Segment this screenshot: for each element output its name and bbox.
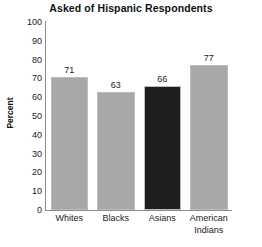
y-axis-tick-label: 20 — [20, 168, 42, 177]
bar-group: 71 — [51, 22, 89, 210]
y-axis-tick-label: 80 — [20, 55, 42, 64]
bar — [144, 86, 182, 210]
x-axis-tick-label-line: American — [182, 213, 237, 225]
bar — [97, 92, 135, 210]
bar-group: 77 — [190, 22, 228, 210]
bar-group: 66 — [144, 22, 182, 210]
y-axis-tick-labels: 1009080706050403020100 — [20, 22, 42, 210]
y-axis-tick-label: 50 — [20, 112, 42, 121]
x-axis-tick-labels: WhitesBlacksAsiansAmericanIndians — [46, 213, 232, 247]
y-axis-tick-label: 70 — [20, 74, 42, 83]
x-axis-tick-label-line: Indians — [182, 225, 237, 237]
y-axis-tick-label: 10 — [20, 187, 42, 196]
y-axis-tick-label: 60 — [20, 93, 42, 102]
y-axis-tick-label: 30 — [20, 149, 42, 158]
bar-value-label: 66 — [144, 74, 182, 84]
bar-chart: Asked of Hispanic Respondents Percent 10… — [0, 0, 262, 247]
y-axis-tick-label: 100 — [20, 18, 42, 27]
bar-group: 63 — [97, 22, 135, 210]
bar-value-label: 77 — [190, 53, 228, 63]
y-axis-tick-label: 40 — [20, 130, 42, 139]
bar — [190, 65, 228, 210]
y-axis-tick-label: 90 — [20, 36, 42, 45]
bar-value-label: 63 — [97, 80, 135, 90]
chart-title: Asked of Hispanic Respondents — [0, 2, 262, 14]
y-axis-tick-label: 0 — [20, 206, 42, 215]
x-axis-tick-label: AmericanIndians — [182, 213, 237, 236]
y-axis-label: Percent — [5, 86, 15, 140]
x-axis-line — [45, 210, 232, 211]
bar — [51, 77, 89, 210]
plot-area: 71636677 — [46, 22, 232, 210]
bar-value-label: 71 — [51, 65, 89, 75]
